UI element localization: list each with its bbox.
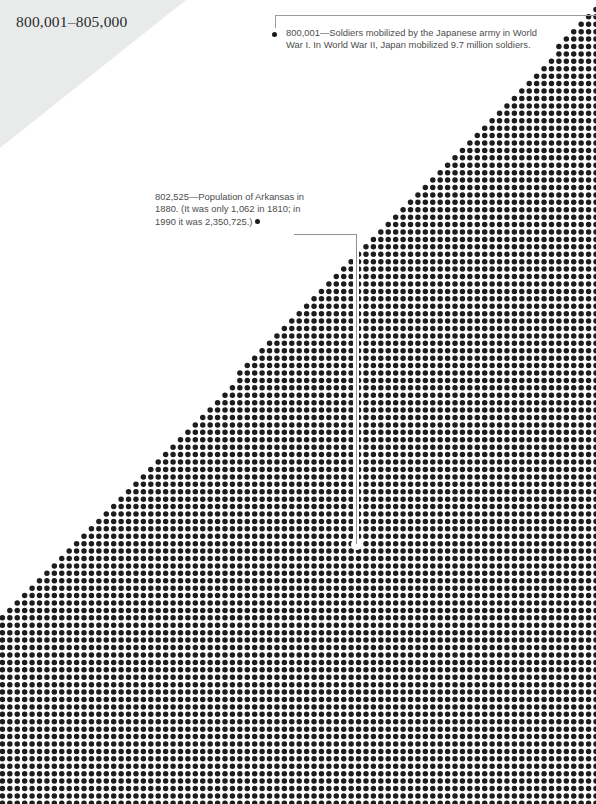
annotation-bullet-icon (272, 32, 277, 37)
annotation-bullet-icon (255, 219, 260, 224)
halftone-dot-field (0, 0, 596, 804)
annotation-text: 800,001—Soldiers mobilized by the Japane… (286, 27, 544, 52)
leader-line-horizontal-middle (294, 234, 357, 235)
annotation-population-arkansas-1880: 802,525—Population of Arkansas in 1880. … (155, 191, 355, 228)
annotation-line-2: 1880. (It was only 1,062 in 1810; in (155, 203, 300, 214)
page-canvas: 800,001–805,000 800,001—Soldiers mobiliz… (0, 0, 596, 804)
annotation-line-1: 802,525—Population of Arkansas in (155, 191, 304, 202)
annotation-soldiers-japan-ww1: 800,001—Soldiers mobilized by the Japane… (272, 27, 544, 52)
annotation-line-3: 1990 it was 2,350,725.) (155, 216, 252, 227)
page-title: 800,001–805,000 (16, 13, 128, 31)
leader-line-horizontal-top (275, 15, 596, 16)
leader-line-vertical-middle (356, 234, 357, 544)
